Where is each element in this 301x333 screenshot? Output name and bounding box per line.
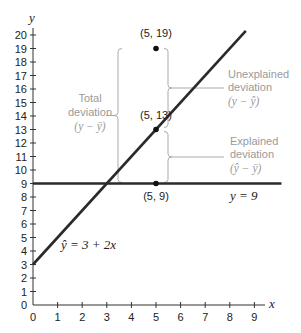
y-tick-label: 8: [21, 191, 27, 203]
y-tick-label: 5: [21, 232, 27, 244]
y-tick-label: 17: [15, 70, 27, 82]
y-tick-label: 13: [15, 124, 27, 136]
point-label: (5, 13): [140, 109, 172, 121]
point-label: (5, 9): [143, 190, 169, 202]
y-tick-label: 11: [16, 151, 27, 163]
annotation-labels: (5, 19)(5, 13)(5, 9)Totaldeviation(y − ȳ…: [59, 27, 289, 253]
x-tick-label: 3: [104, 311, 110, 323]
total-deviation-bracket: [114, 49, 122, 183]
y-tick-label: 4: [21, 245, 27, 257]
x-tick-label: 8: [227, 311, 233, 323]
explained-deviation-formula: (ŷ − ȳ): [230, 162, 262, 175]
x-tick-label: 9: [251, 311, 257, 323]
data-point: [153, 181, 159, 187]
x-axis-label: x: [268, 296, 275, 311]
y-tick-label: 9: [21, 178, 27, 190]
y-tick-label: 14: [15, 110, 27, 122]
y-tick-label: 2: [21, 272, 27, 284]
y-tick-label: 1: [21, 286, 27, 298]
unexplained-deviation-label-2: deviation: [228, 81, 272, 93]
mean-line-label: y = 9: [228, 188, 258, 203]
total-deviation-formula: (y − ȳ): [74, 120, 106, 133]
y-tick-label: 18: [15, 56, 27, 68]
y-tick-label: 12: [15, 137, 27, 149]
x-tick-label: 7: [202, 311, 208, 323]
y-tick-label: 6: [21, 218, 27, 230]
regression-equation-label: ŷ = 3 + 2x: [59, 237, 116, 252]
x-tick-label: 6: [178, 311, 184, 323]
regression-deviation-chart: 0123456789101112131415161718192001234567…: [0, 0, 301, 333]
y-tick-label: 0: [21, 299, 27, 311]
x-tick-label: 1: [55, 311, 61, 323]
regression-line: [33, 31, 246, 265]
y-tick-label: 20: [15, 29, 27, 41]
unexplained-deviation-label: Unexplained: [228, 68, 289, 80]
x-tick-label: 5: [153, 311, 159, 323]
y-tick-label: 10: [15, 164, 27, 176]
total-deviation-label-2: deviation: [68, 106, 112, 118]
x-tick-label: 2: [79, 311, 85, 323]
y-tick-label: 3: [21, 259, 27, 271]
x-tick-label: 4: [128, 311, 134, 323]
explained-deviation-bracket: [164, 132, 172, 183]
explained-deviation-label: Explained: [230, 135, 278, 147]
y-tick-label: 15: [15, 97, 27, 109]
y-tick-label: 7: [21, 205, 27, 217]
point-label: (5, 19): [140, 27, 172, 39]
y-tick-label: 19: [15, 43, 27, 55]
total-deviation-label: Total: [78, 92, 101, 104]
explained-deviation-label-2: deviation: [230, 148, 274, 160]
unexplained-deviation-formula: (y − ŷ): [228, 95, 260, 108]
data-point: [153, 46, 159, 52]
y-axis-label: y: [27, 10, 35, 25]
y-tick-label: 16: [15, 83, 27, 95]
x-tick-label: 0: [30, 311, 36, 323]
data-point: [153, 127, 159, 133]
